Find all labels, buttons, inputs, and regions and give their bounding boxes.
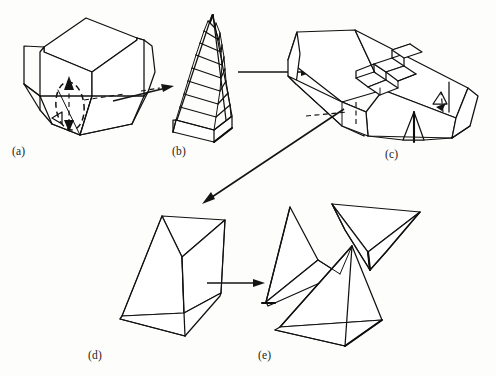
panel-label-c: (c): [385, 148, 398, 160]
panel-label-a: (a): [12, 145, 25, 157]
shape-hexagonal-prism-a: [24, 18, 160, 135]
shape-exploded-tetrahedra-e: [262, 204, 420, 346]
shape-stepped-wedge-c: [288, 30, 478, 142]
figure-container: (a) (b) (c) (d) (e): [0, 0, 496, 376]
shape-triangular-prism-d: [120, 216, 225, 336]
panel-label-e: (e): [258, 349, 271, 361]
shape-stepped-pyramid-b: [173, 15, 232, 142]
panel-label-b: (b): [172, 145, 186, 157]
figure-drawing: [0, 0, 496, 376]
panel-label-d: (d): [88, 349, 102, 361]
